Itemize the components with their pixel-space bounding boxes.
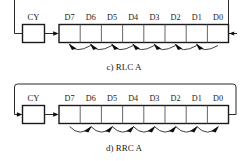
rrc-carry-label: CY	[28, 93, 40, 103]
rrc-bit-label-d5: D5	[107, 94, 117, 103]
rrc-bit-label-d4: D4	[128, 94, 138, 103]
rlc-accumulator-register	[59, 25, 229, 43]
rotate-instruction-figure: CY D7 D6 D5 D4 D3 D2 D1 D0	[0, 0, 247, 161]
diagram-rrc: CY D7 D6 D5 D4 D3 D2 D1 D0	[0, 78, 247, 161]
rlc-bit-label-d6: D6	[86, 13, 96, 22]
rlc-bit-label-d4: D4	[128, 13, 138, 22]
rrc-carry-to-register-arrow	[45, 112, 59, 116]
rlc-feedback-left-vertical	[15, 0, 23, 34]
rlc-caption: c) RLC A	[107, 62, 142, 72]
rlc-bit-label-d7: D7	[65, 13, 75, 22]
diagram-rlc: CY D7 D6 D5 D4 D3 D2 D1 D0	[0, 0, 247, 78]
rlc-bit-label-d2: D2	[171, 13, 181, 22]
rrc-carry-input-arrowhead	[17, 112, 22, 116]
rrc-bit-labels: D7 D6 D5 D4 D3 D2 D1 D0	[65, 94, 223, 103]
rrc-bit-label-d0: D0	[213, 94, 223, 103]
rrc-caption: d) RRC A	[106, 143, 143, 153]
rlc-carry-to-register-arrow	[45, 31, 59, 35]
rlc-bit-label-d3: D3	[149, 13, 159, 22]
rlc-bit-label-d5: D5	[107, 13, 117, 22]
rrc-bit-label-d7: D7	[65, 94, 75, 103]
rrc-bit-label-d6: D6	[86, 94, 96, 103]
rrc-svg: CY D7 D6 D5 D4 D3 D2 D1 D0	[0, 78, 247, 161]
rlc-bit-label-d1: D1	[192, 13, 202, 22]
rrc-carry-box	[23, 106, 45, 124]
rrc-bit-label-d2: D2	[171, 94, 181, 103]
rlc-register-input-arrowhead	[229, 32, 234, 36]
rlc-bit-labels: D7 D6 D5 D4 D3 D2 D1 D0	[65, 13, 223, 22]
rlc-carry-box	[23, 25, 45, 43]
rrc-bit-label-d3: D3	[149, 94, 159, 103]
rlc-svg: CY D7 D6 D5 D4 D3 D2 D1 D0	[0, 0, 247, 78]
rlc-shift-arcs	[69, 43, 218, 50]
rrc-shift-arcs	[70, 126, 219, 133]
rrc-accumulator-register	[59, 106, 229, 124]
rlc-carry-label: CY	[28, 12, 40, 22]
rlc-bit-label-d0: D0	[213, 13, 223, 22]
rlc-carry-output-arrowhead	[53, 31, 58, 35]
rrc-carry-output-arrowhead	[53, 112, 58, 116]
rrc-bit-label-d1: D1	[192, 94, 202, 103]
